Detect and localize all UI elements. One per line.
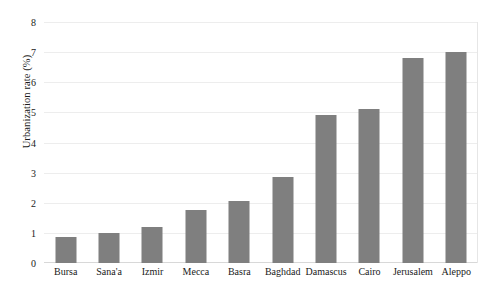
bar[interactable] bbox=[185, 210, 206, 263]
bar-slot bbox=[87, 22, 130, 263]
y-axis-tick-label: 7 bbox=[8, 47, 36, 58]
bar[interactable] bbox=[402, 58, 423, 263]
x-axis-tick-labels: BursaSana'aIzmirMeccaBasraBaghdadDamascu… bbox=[44, 266, 478, 288]
bar-slot bbox=[435, 22, 478, 263]
bar[interactable] bbox=[99, 233, 120, 263]
y-axis-tick-label: 3 bbox=[8, 167, 36, 178]
bars-layer bbox=[44, 22, 477, 263]
bar-slot bbox=[261, 22, 304, 263]
bar-slot bbox=[44, 22, 87, 263]
bar[interactable] bbox=[446, 52, 467, 263]
x-axis-tick-label: Basra bbox=[228, 266, 251, 277]
bar-slot bbox=[348, 22, 391, 263]
bar-slot bbox=[218, 22, 261, 263]
x-axis-tick-label: Izmir bbox=[142, 266, 164, 277]
y-axis-title: Urbanization rate (%) bbox=[21, 12, 32, 192]
x-axis-tick-label: Mecca bbox=[183, 266, 210, 277]
bar[interactable] bbox=[55, 237, 76, 263]
x-axis-tick-label: Cairo bbox=[358, 266, 380, 277]
x-axis-tick-label: Jerusalem bbox=[393, 266, 433, 277]
y-axis-tick-label: 1 bbox=[8, 227, 36, 238]
bar-slot bbox=[304, 22, 347, 263]
bar[interactable] bbox=[142, 227, 163, 263]
x-axis-tick-label: Bursa bbox=[54, 266, 77, 277]
bar[interactable] bbox=[229, 201, 250, 263]
bar[interactable] bbox=[272, 177, 293, 263]
bar-chart: Urbanization rate (%) 012345678 BursaSan… bbox=[0, 0, 488, 291]
y-axis-tick-label: 6 bbox=[8, 77, 36, 88]
y-axis-tick-label: 5 bbox=[8, 107, 36, 118]
bar-slot bbox=[131, 22, 174, 263]
bar[interactable] bbox=[316, 115, 337, 263]
bar-slot bbox=[174, 22, 217, 263]
x-axis-tick-label: Baghdad bbox=[265, 266, 301, 277]
x-axis-tick-label: Aleppo bbox=[442, 266, 471, 277]
y-axis-tick-label: 0 bbox=[8, 258, 36, 269]
x-axis-tick-label: Damascus bbox=[306, 266, 347, 277]
bar-slot bbox=[391, 22, 434, 263]
y-axis-tick-label: 8 bbox=[8, 17, 36, 28]
plot-area bbox=[44, 22, 478, 263]
y-axis-tick-label: 2 bbox=[8, 197, 36, 208]
bar[interactable] bbox=[359, 109, 380, 263]
x-axis-tick-label: Sana'a bbox=[96, 266, 122, 277]
y-axis-tick-label: 4 bbox=[8, 137, 36, 148]
